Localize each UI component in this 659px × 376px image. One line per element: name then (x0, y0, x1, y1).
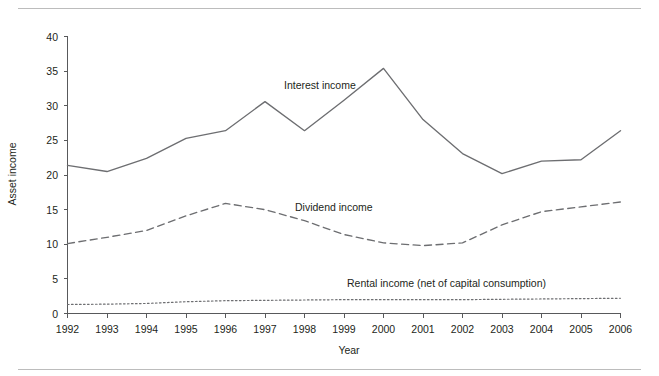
x-axis-tick-label: 2002 (451, 324, 474, 335)
x-axis-tick-label: 2000 (372, 324, 395, 335)
x-axis-tick-label: 2005 (569, 324, 592, 335)
y-axis-tick-label: 20 (34, 170, 58, 181)
x-axis-tick-label: 1992 (56, 324, 79, 335)
x-axis-tick-label: 2006 (609, 324, 632, 335)
y-axis-tick-label: 35 (34, 66, 58, 77)
y-axis-tick-label: 15 (34, 204, 58, 215)
y-axis-tick-label: 5 (34, 274, 58, 285)
series-label-rental-income: Rental income (net of capital consumptio… (347, 278, 546, 289)
x-axis-tick-label: 1999 (332, 324, 355, 335)
x-axis-tick-label: 1998 (293, 324, 316, 335)
series-line-rental (68, 298, 621, 304)
data-series-group (68, 68, 621, 304)
y-axis-tick-label: 40 (34, 31, 58, 42)
y-axis-tick-label: 30 (34, 101, 58, 112)
x-axis-title: Year (338, 344, 359, 356)
x-axis-tick-label: 2004 (530, 324, 553, 335)
series-label-interest-income: Interest income (284, 80, 356, 91)
x-axis-tick-label: 2001 (411, 324, 434, 335)
x-axis-tick-label: 1993 (95, 324, 118, 335)
y-axis-ticks (64, 37, 68, 314)
y-axis-tick-label: 0 (34, 308, 58, 319)
x-axis-ticks (68, 314, 621, 318)
series-label-dividend-income: Dividend income (295, 202, 373, 213)
y-axis-tick-label: 10 (34, 239, 58, 250)
plot-area (0, 0, 659, 376)
y-axis-tick-label: 25 (34, 135, 58, 146)
x-axis-tick-label: 1997 (253, 324, 276, 335)
x-axis-tick-label: 2003 (490, 324, 513, 335)
chart-figure: 0510152025303540 19921993199419951996199… (0, 0, 659, 376)
x-axis-tick-label: 1994 (135, 324, 158, 335)
x-axis-tick-label: 1995 (174, 324, 197, 335)
x-axis-tick-label: 1996 (214, 324, 237, 335)
y-axis-title: Asset income (6, 142, 18, 205)
